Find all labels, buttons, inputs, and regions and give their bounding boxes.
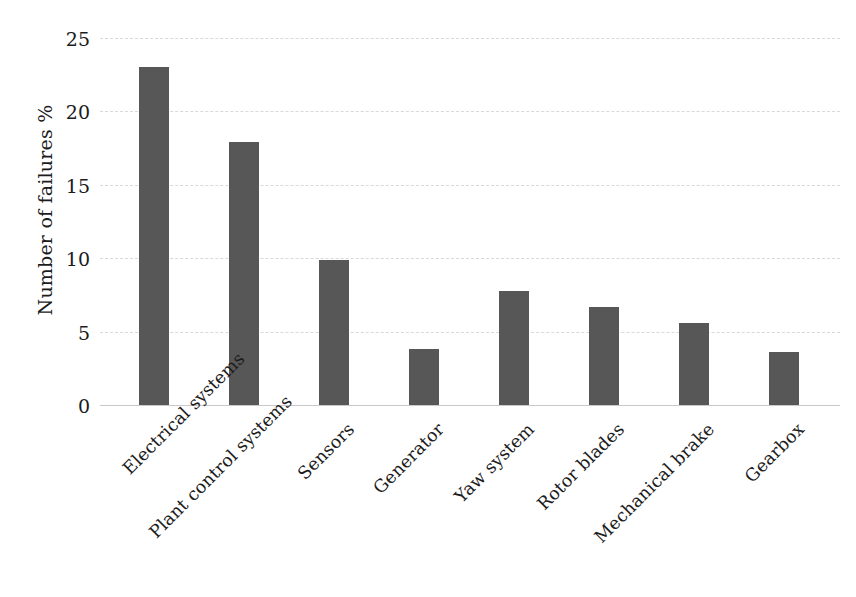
y-axis-tick-label: 15: [66, 175, 90, 197]
bar-series: [100, 38, 840, 405]
y-axis-title: Number of failures %: [22, 0, 68, 420]
x-axis-tick-label-wrapper: Electrical systems: [119, 419, 178, 478]
bar: [319, 260, 349, 405]
bar-chart: Number of failures % 2520151050 Electric…: [0, 0, 856, 597]
plot-area: 2520151050: [100, 38, 840, 405]
y-axis-tick-label: 5: [78, 322, 90, 344]
bar: [139, 67, 169, 405]
x-axis-category-labels: Electrical systemsPlant control systemsS…: [100, 405, 840, 585]
bar: [499, 291, 529, 406]
x-axis-tick-label: Sensors: [294, 419, 358, 483]
x-axis-tick-label: Gearbox: [741, 419, 808, 486]
y-axis-tick-label: 10: [66, 248, 90, 270]
x-axis-tick-label: Generator: [369, 419, 448, 498]
bar: [589, 307, 619, 405]
x-axis-tick-label: Rotor blades: [533, 419, 628, 514]
bar: [679, 323, 709, 405]
y-axis-tick-label: 0: [78, 395, 90, 417]
y-axis-tick-label: 20: [66, 101, 90, 123]
bar: [769, 352, 799, 405]
x-axis-tick-label: Yaw system: [450, 419, 538, 507]
x-axis-tick-label-wrapper: Sensors: [171, 419, 358, 597]
y-axis-tick-label: 25: [66, 28, 90, 50]
bar: [409, 349, 439, 405]
